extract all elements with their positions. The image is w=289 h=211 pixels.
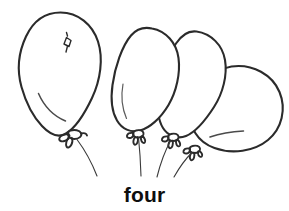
string-1 [77,140,97,177]
knot-2-loop-left [127,133,134,138]
string-4 [174,153,192,177]
knot-2 [127,130,145,145]
flashcard: four [0,0,289,211]
knot-4-loop-right [198,151,202,157]
knot-3-loop-left [162,136,169,141]
balloon-1 [19,13,101,136]
knot-3-loop-right [176,140,180,147]
highlight-top-tick-icon [67,33,68,37]
caption-text: four [0,184,289,205]
string-2 [139,138,142,177]
balloon-1-body [19,13,101,136]
knot-2-loop-right [141,136,145,143]
balloons-illustration [0,0,289,211]
knot-4-loop-left [183,148,190,153]
